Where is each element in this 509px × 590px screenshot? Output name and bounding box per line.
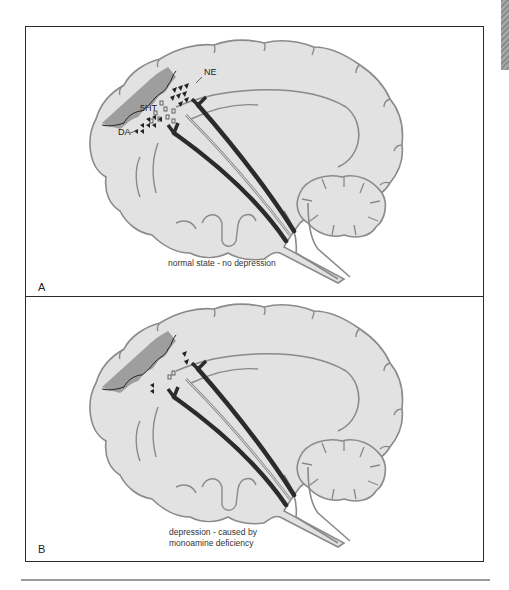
panel-a-normal-state: NE 5HT DA normal state - no depression A [25,26,484,297]
bottom-rule-divider [21,579,490,581]
panel-b-caption-line2: monoamine deficiency [169,538,257,549]
brain-diagram-depression [26,297,485,563]
panel-a-caption: normal state - no depression [168,258,276,269]
panel-b-letter: B [38,543,45,555]
panel-b-caption-line1: depression - caused by [169,527,257,538]
5ht-label: 5HT [140,103,157,113]
panel-a-letter: A [38,281,45,293]
da-label: DA [118,127,131,137]
panel-b-caption: depression - caused by monoamine deficie… [169,527,257,549]
page-corner-tab [501,0,509,70]
ne-label: NE [204,67,217,77]
panel-b-depression-state: depression - caused by monoamine deficie… [25,296,484,562]
